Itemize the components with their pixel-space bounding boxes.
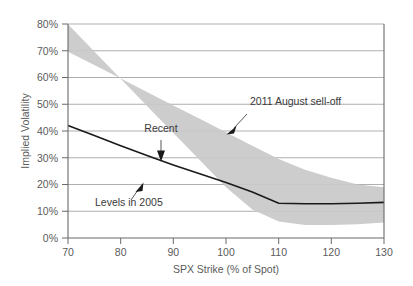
y-tick-label-40: 40% (37, 125, 58, 137)
y-tick-label-0: 0% (43, 232, 58, 244)
annotation-recent-label: Recent (144, 122, 177, 134)
y-tick-label-10: 10% (37, 205, 58, 217)
chart-canvas: 80% 70% 60% 50% 40% 30% 20% 10% 0% 70 80… (0, 0, 413, 286)
x-axis-title: SPX Strike (% of Spot) (173, 263, 279, 275)
y-tick-label-20: 20% (37, 178, 58, 190)
x-tick-label-70: 70 (62, 246, 74, 258)
x-tick-label-80: 80 (115, 246, 127, 258)
x-tick-label-100: 100 (217, 246, 235, 258)
annotation-2011-label: 2011 August sell-off (250, 95, 341, 107)
y-tick-label-70: 70% (37, 45, 58, 57)
y-axis-title: Implied Volatility (19, 93, 31, 169)
y-tick-label-50: 50% (37, 98, 58, 110)
annotation-2005-label: Levels in 2005 (95, 196, 163, 208)
y-tick-label-60: 60% (37, 71, 58, 83)
implied-volatility-skew-chart: 80% 70% 60% 50% 40% 30% 20% 10% 0% 70 80… (0, 0, 413, 286)
y-tick-labels: 80% 70% 60% 50% 40% 30% 20% 10% 0% (37, 18, 58, 244)
x-tick-label-120: 120 (323, 246, 341, 258)
x-tick-label-110: 110 (270, 246, 287, 258)
x-tick-label-130: 130 (375, 246, 393, 258)
y-tick-label-30: 30% (37, 152, 58, 164)
y-tick-label-80: 80% (37, 18, 58, 30)
x-tick-label-90: 90 (167, 246, 179, 258)
